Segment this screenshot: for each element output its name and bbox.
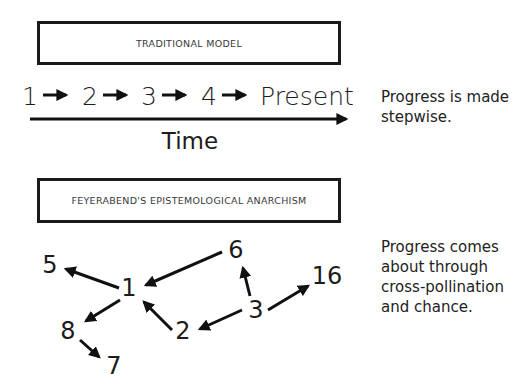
network-nodes: 5 1 8 7 2 6 3 16 [42,236,342,380]
edge-3-to-16 [268,286,308,310]
edge-2-to-1 [144,302,172,330]
node-3: 3 [248,296,263,324]
edge-1-to-8 [86,300,120,321]
node-1: 1 [121,274,136,302]
edge-6-to-1 [146,252,222,285]
node-8: 8 [60,317,75,345]
edge-3-to-6 [243,268,250,296]
edge-1-to-5 [66,269,119,288]
edge-8-to-7 [80,340,99,357]
node-2: 2 [175,317,190,345]
node-7: 7 [106,352,121,380]
node-6: 6 [228,236,243,264]
diagram-canvas: 5 1 8 7 2 6 3 16 [0,0,528,384]
edge-3-to-2 [200,310,242,329]
node-16: 16 [312,262,343,290]
node-5: 5 [42,251,57,279]
